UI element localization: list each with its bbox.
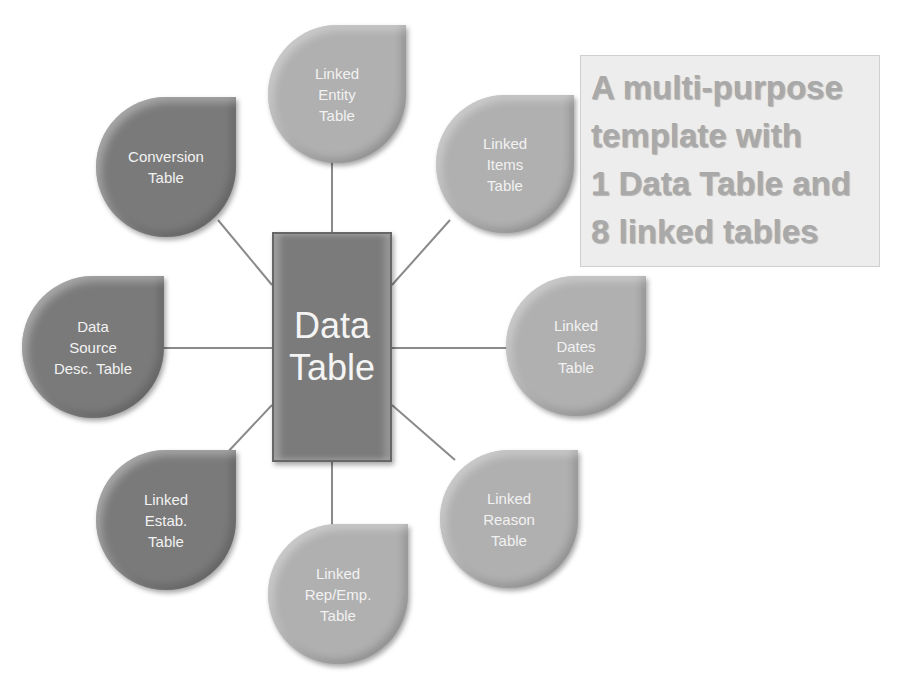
node-data-source-desc-table: Data Source Desc. Table <box>22 276 164 418</box>
node-linked-dates-table: Linked Dates Table <box>506 276 646 416</box>
node-label: Conversion Table <box>118 146 214 188</box>
node-label: Data Source Desc. Table <box>44 316 142 379</box>
node-label: Linked Reason Table <box>473 488 545 551</box>
node-label: Linked Dates Table <box>544 315 608 378</box>
connector-reason <box>392 405 455 460</box>
node-linked-estab-table: Linked Estab. Table <box>96 450 236 590</box>
node-conversion-table: Conversion Table <box>96 97 236 237</box>
connector-conversion <box>218 220 272 285</box>
node-label: Linked Estab. Table <box>134 489 198 552</box>
node-linked-entity-table: Linked Entity Table <box>268 25 406 163</box>
node-linked-items-table: Linked Items Table <box>436 95 574 233</box>
node-label: Linked Entity Table <box>305 63 369 126</box>
hub-diagram: Linked Entity Table Conversion Table Lin… <box>0 0 902 685</box>
node-label: Linked Items Table <box>473 133 537 196</box>
description-callout: A multi-purpose template with 1 Data Tab… <box>580 55 880 267</box>
node-linked-reason-table: Linked Reason Table <box>440 450 578 588</box>
connector-estab <box>225 405 272 455</box>
center-data-table: Data Table <box>272 232 392 462</box>
node-linked-rep-emp-table: Linked Rep/Emp. Table <box>268 524 408 664</box>
connector-items <box>392 220 450 285</box>
center-label: Data Table <box>289 305 375 389</box>
node-label: Linked Rep/Emp. Table <box>295 563 382 626</box>
callout-text: A multi-purpose template with 1 Data Tab… <box>591 64 869 256</box>
